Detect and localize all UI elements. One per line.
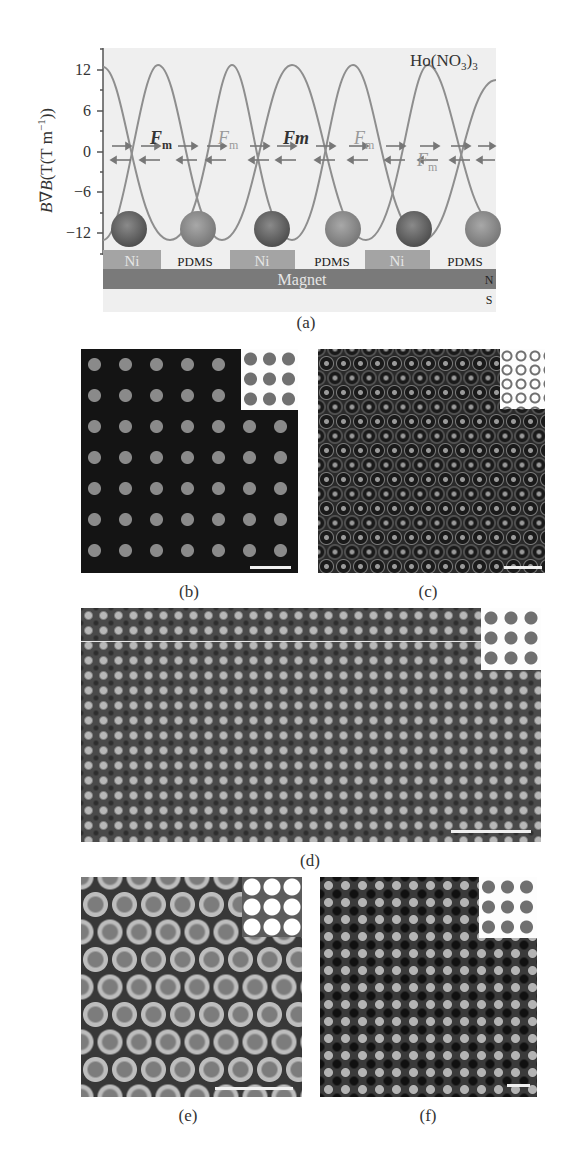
panel-f-sem-image [320,877,537,1097]
panel-label-d: (d) [290,851,330,871]
inset-b [241,349,298,410]
inset-d [481,608,541,670]
panel-a: 12 6 0 −6 −12 B∇B(T(T m−1)) [0,0,567,340]
svg-text:−6: −6 [74,183,91,200]
ni-particle [254,211,290,247]
scale-bar [215,1087,293,1090]
scale-bar [504,566,542,569]
ni-particle [396,211,432,247]
scale-bar [250,566,291,569]
compound-title: Ho(NO3)3 [410,51,478,72]
inset-e [242,877,302,937]
y-axis-labels: 12 6 0 −6 −12 [66,61,91,241]
pole-south: S [486,293,493,307]
svg-text:6: 6 [83,102,91,119]
panel-label-a: (a) [286,313,326,333]
pdms-particle [465,211,501,247]
force-field-chart: 12 6 0 −6 −12 B∇B(T(T m−1)) [0,0,567,340]
ni-particle [111,211,147,247]
pole-north: N [485,273,494,287]
panel-d-sem-image [81,608,541,842]
y-axis-ticks [97,49,103,254]
scale-bar [507,1084,530,1087]
panel-label-f: (f) [408,1106,448,1126]
inset-c [500,349,545,409]
panel-e-sem-image [81,877,302,1097]
pdms-particle [325,211,361,247]
svg-text:0: 0 [83,143,91,160]
inset-f [479,877,537,938]
svg-text:PDMS: PDMS [447,254,482,269]
force-label: Fm [282,128,309,148]
pdms-particle [180,211,216,247]
crack-line [81,641,481,642]
panel-label-b: (b) [169,582,209,602]
svg-text:Ni: Ni [390,253,405,269]
panel-label-e: (e) [168,1106,208,1126]
svg-text:12: 12 [75,61,91,78]
svg-text:Ni: Ni [255,253,270,269]
scale-bar [451,830,531,833]
panel-b-sem-image [81,349,298,573]
y-axis-title: B∇B(T(T m−1)) [35,108,56,213]
svg-text:Ni: Ni [125,253,140,269]
panel-label-c: (c) [408,582,448,602]
panel-c-sem-image [318,349,545,573]
svg-text:−12: −12 [66,224,91,241]
magnet-label: Magnet [278,271,327,289]
svg-text:PDMS: PDMS [314,254,349,269]
svg-text:PDMS: PDMS [177,254,212,269]
